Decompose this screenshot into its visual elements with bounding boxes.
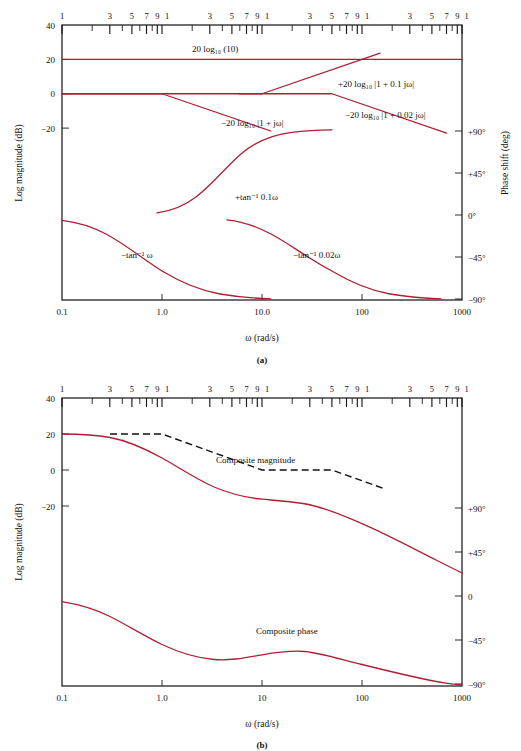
top-tick-label: 3 (408, 11, 412, 21)
top-tick-label: 7 (444, 384, 448, 394)
x-tick-label: 0.1 (56, 693, 67, 703)
x-tick-label: 100 (355, 693, 369, 703)
x-tick-label: 0.1 (56, 307, 67, 317)
top-tick-label: 9 (255, 11, 259, 21)
annotation-zero-0p1-label: +20 log₁₀ |1 + 0.1 jω| (338, 79, 414, 89)
y-right-tick-label: +45° (468, 548, 486, 558)
top-tick-label: 9 (155, 11, 159, 21)
y-right-tick-label: +45° (468, 169, 486, 179)
top-tick-label: 3 (208, 384, 212, 394)
panel-a-x-tick-labels: 0.1 1.0 10.0 100 1000 (56, 307, 471, 317)
top-tick-label: 9 (355, 384, 359, 394)
panel-b-y-right-tick-labels: +90° +45° 0 −45° −90° (468, 504, 486, 690)
top-tick-label: 5 (130, 384, 134, 394)
panel-a-svg: 1 3 5 7 9 1 3 5 7 9 1 3 5 7 9 1 3 5 7 9 (0, 0, 521, 368)
top-tick-label: 7 (344, 11, 348, 21)
y-left-tick-label: 20 (46, 430, 56, 440)
annotation-composite-phase-label: Composite phase (256, 626, 318, 636)
y-left-tick-label: 40 (46, 394, 56, 404)
panel-b-x-tick-labels: 0.1 1.0 10 100 1000 (56, 693, 471, 703)
top-tick-label: 5 (230, 11, 234, 21)
panel-b-y-left-axis-title: Log magnitude (dB) (14, 503, 25, 581)
top-tick-label: 7 (344, 384, 348, 394)
x-tick-label: 10.0 (254, 307, 270, 317)
y-left-tick-label: 0 (51, 466, 56, 476)
annotation-gain-label: 20 log₁₀ (10) (192, 44, 238, 54)
panel-a-y-right-axis-title: Phase shift (deg) (500, 131, 511, 195)
x-tick-label: 1000 (453, 693, 472, 703)
annotation-pole-1-label: −20 log₁₀ |1 + jω| (221, 118, 284, 128)
top-tick-label: 7 (244, 384, 248, 394)
panel-a-y-right-tick-labels: +90° +45° 0° −45° −90° (468, 127, 486, 305)
top-tick-label: 1 (60, 11, 64, 21)
top-tick-label: 1 (265, 11, 269, 21)
top-tick-label: 7 (144, 384, 148, 394)
x-tick-label: 1.0 (156, 307, 168, 317)
panel-a-y-left-tick-labels: 40 20 0 −20 (41, 21, 56, 134)
panel-a: 1 3 5 7 9 1 3 5 7 9 1 3 5 7 9 1 3 5 7 9 (0, 0, 521, 368)
panel-b-left-ticks (62, 434, 69, 506)
top-tick-label: 3 (208, 11, 212, 21)
panel-b: 1 3 5 7 9 1 3 5 7 9 1 3 5 7 9 1 3 5 7 9 (0, 368, 521, 751)
curve-composite-phase (62, 602, 462, 685)
y-right-tick-label: −90° (468, 680, 486, 690)
top-tick-label: 1 (365, 11, 369, 21)
top-tick-label: 3 (308, 384, 312, 394)
panel-a-y-left-axis-title: Log magnitude (dB) (14, 124, 25, 202)
y-right-tick-label: 0° (468, 211, 477, 221)
top-tick-label: 1 (265, 384, 269, 394)
x-tick-label: 1.0 (156, 693, 168, 703)
annotation-pole-0p02-label: −20 log₁₀ |1 + 0.02 jω| (345, 110, 426, 120)
top-tick-label: 3 (108, 11, 112, 21)
panel-b-bottom-ticks (162, 680, 362, 686)
panel-b-caption: (b) (257, 740, 268, 750)
panel-b-svg: 1 3 5 7 9 1 3 5 7 9 1 3 5 7 9 1 3 5 7 9 (0, 368, 521, 751)
panel-a-top-ticks (62, 25, 462, 34)
top-tick-label: 1 (60, 384, 64, 394)
top-tick-label: 5 (130, 11, 134, 21)
panel-b-right-ticks (455, 508, 462, 684)
y-right-tick-label: −45° (468, 636, 486, 646)
panel-a-x-axis-title: ω (rad/s) (245, 333, 278, 344)
y-right-tick-label: −90° (468, 295, 486, 305)
top-tick-label: 3 (108, 384, 112, 394)
top-tick-label: 1 (165, 384, 169, 394)
top-tick-label: 7 (444, 11, 448, 21)
y-left-tick-label: 0 (51, 89, 56, 99)
y-left-tick-label: 20 (46, 55, 56, 65)
x-tick-label: 1000 (453, 307, 472, 317)
bode-plot-figure: 1 3 5 7 9 1 3 5 7 9 1 3 5 7 9 1 3 5 7 9 (0, 0, 521, 751)
annotation-composite-magnitude-label: Composite magnitude (216, 455, 295, 465)
panel-a-top-tick-labels: 1 3 5 7 9 1 3 5 7 9 1 3 5 7 9 1 3 5 7 9 (60, 11, 469, 21)
top-tick-label: 9 (355, 11, 359, 21)
y-right-tick-label: +90° (468, 504, 486, 514)
y-right-tick-label: 0 (468, 592, 473, 602)
y-right-tick-label: +90° (468, 127, 486, 137)
y-right-tick-label: −45° (468, 253, 486, 263)
panel-a-caption: (a) (257, 355, 268, 365)
top-tick-label: 5 (430, 384, 434, 394)
annotation-phase-pole1-label: −tan⁻¹ ω (121, 250, 153, 260)
curve-phase-pole-1 (62, 220, 271, 298)
panel-a-right-ticks (455, 131, 462, 299)
top-tick-label: 1 (365, 384, 369, 394)
panel-b-top-tick-labels: 1 3 5 7 9 1 3 5 7 9 1 3 5 7 9 1 3 5 7 9 (60, 384, 469, 394)
top-tick-label: 1 (165, 11, 169, 21)
annotation-phase-zero-label: +tan⁻¹ 0.1ω (235, 192, 278, 202)
top-tick-label: 5 (330, 11, 334, 21)
top-tick-label: 1 (464, 384, 468, 394)
y-left-tick-label: −20 (41, 502, 56, 512)
top-tick-label: 5 (230, 384, 234, 394)
panel-b-plot-frame (62, 398, 462, 686)
panel-b-y-left-tick-labels: 40 20 0 −20 (41, 394, 56, 512)
top-tick-label: 5 (330, 384, 334, 394)
y-left-tick-label: −20 (41, 124, 56, 134)
annotation-phase-pole002-label: −tan⁻¹ 0.02ω (293, 250, 341, 260)
panel-b-x-axis-title: ω (rad/s) (245, 719, 278, 730)
top-tick-label: 9 (255, 384, 259, 394)
top-tick-label: 9 (155, 384, 159, 394)
x-tick-label: 100 (355, 307, 369, 317)
x-tick-label: 10 (258, 693, 268, 703)
top-tick-label: 3 (408, 384, 412, 394)
top-tick-label: 5 (430, 11, 434, 21)
